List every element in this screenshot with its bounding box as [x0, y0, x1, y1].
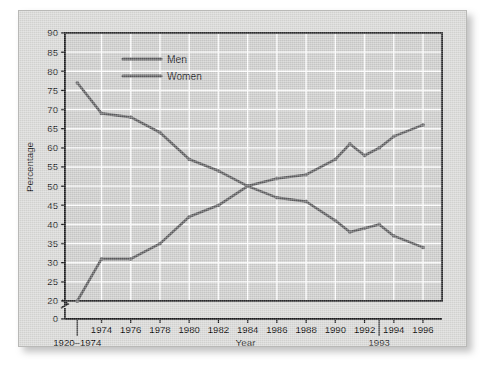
data-point-women	[377, 146, 381, 150]
y-tick-label: 65	[47, 123, 58, 134]
y-axis-title: Percentage	[24, 141, 35, 192]
y-tick-label: 45	[47, 200, 58, 211]
data-point-women	[217, 203, 221, 207]
y-tick-label: 80	[47, 66, 58, 77]
data-point-men	[158, 131, 162, 135]
x-tick-label: 1986	[266, 324, 287, 335]
data-point-men	[217, 169, 221, 173]
y-tick-label: 75	[47, 85, 58, 96]
data-point-women	[304, 173, 308, 177]
x-tick-label: 1974	[91, 324, 113, 335]
data-point-women	[275, 177, 279, 181]
data-point-women	[363, 154, 367, 158]
x-tick-label: 1988	[295, 324, 316, 335]
x-tick-label: 1976	[120, 324, 141, 335]
x-tick-label: 1982	[208, 324, 229, 335]
y-tick-label: 85	[47, 47, 58, 58]
data-point-men	[129, 115, 133, 119]
x-tick-label: 1996	[412, 324, 433, 335]
data-point-men	[348, 230, 352, 234]
x-tick-label: 1984	[237, 324, 259, 335]
chart-card: 0202530354045505560657075808590Percentag…	[18, 10, 467, 347]
y-tick-label: 40	[47, 219, 58, 230]
x-tick-label: 1994	[383, 324, 405, 335]
data-point-men	[377, 223, 381, 227]
x-axis-title: Year	[236, 337, 257, 346]
data-point-women	[158, 242, 162, 246]
data-point-women	[348, 142, 352, 146]
y-tick-label: 55	[47, 161, 58, 172]
x-annotation-1993: 1993	[368, 337, 389, 346]
x-tick-label-first: 1920–1974	[53, 337, 102, 346]
data-point-women	[187, 215, 191, 219]
data-point-women	[129, 257, 133, 261]
x-tick-label: 1990	[325, 324, 346, 335]
data-point-women	[392, 135, 396, 139]
y-tick-label: 70	[47, 104, 58, 115]
data-point-women	[75, 299, 79, 303]
legend-label-men: Men	[167, 54, 187, 65]
data-point-women	[421, 123, 425, 127]
data-point-women	[100, 257, 104, 261]
x-tick-label: 1978	[149, 324, 170, 335]
y-tick-label: 20	[47, 295, 58, 306]
data-point-men	[333, 219, 337, 223]
legend-label-women: Women	[167, 71, 202, 82]
data-point-men	[100, 112, 104, 116]
y-tick-label: 50	[47, 181, 58, 192]
y-tick-label: 0	[53, 313, 58, 324]
y-tick-label: 30	[47, 257, 58, 268]
data-point-men	[421, 246, 425, 250]
line-chart: 0202530354045505560657075808590Percentag…	[19, 11, 466, 346]
data-point-women	[246, 184, 250, 188]
y-tick-label: 90	[47, 27, 58, 38]
data-point-men	[363, 226, 367, 230]
x-tick-label: 1980	[179, 324, 200, 335]
y-tick-label: 60	[47, 142, 58, 153]
y-tick-label: 25	[47, 276, 58, 287]
data-point-men	[75, 81, 79, 85]
data-point-men	[275, 196, 279, 200]
x-tick-label: 1992	[354, 324, 375, 335]
data-point-men	[392, 234, 396, 238]
data-point-men	[304, 200, 308, 204]
data-point-men	[187, 157, 191, 161]
y-tick-label: 35	[47, 238, 58, 249]
data-point-women	[333, 157, 337, 161]
